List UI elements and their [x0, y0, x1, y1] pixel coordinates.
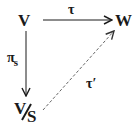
label-tau: τ	[68, 3, 74, 17]
quotient-slash	[0, 0, 137, 133]
quotient-denominator: S	[27, 107, 36, 127]
label-pi-s: πs	[7, 51, 19, 65]
label-tau-prime: τ′	[86, 77, 96, 91]
commutative-diagram: V W V S τ πs τ′	[0, 0, 137, 133]
label-subscript-s: s	[14, 56, 18, 68]
